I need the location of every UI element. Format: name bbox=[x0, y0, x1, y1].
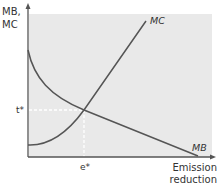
e-star-label: e* bbox=[80, 162, 91, 172]
y-axis-label-line1: MB, bbox=[2, 6, 21, 17]
x-axis-arrow-icon bbox=[210, 155, 216, 160]
y-axis-arrow-icon bbox=[26, 3, 31, 9]
mb-curve-label: MB bbox=[192, 142, 207, 153]
x-axis-label-line2: reduction bbox=[170, 174, 217, 185]
mc-curve-label: MC bbox=[150, 15, 165, 26]
x-axis-label-line1: Emission bbox=[173, 162, 218, 173]
t-star-label: t* bbox=[16, 105, 25, 115]
mb-mc-chart: MB, MC MC MB t* e* Emission reduction bbox=[0, 0, 222, 186]
y-axis-label-line2: MC bbox=[2, 19, 18, 30]
plot-background bbox=[29, 14, 212, 157]
